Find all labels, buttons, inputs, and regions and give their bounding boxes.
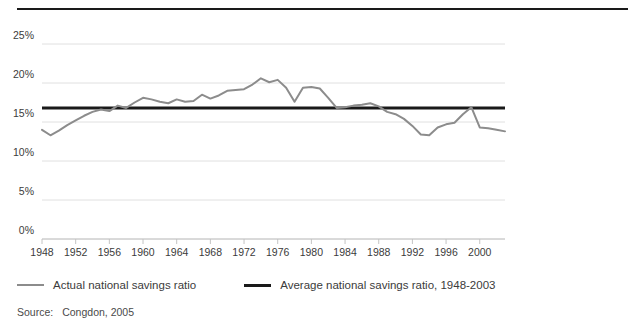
savings-ratio-line-chart: 0%5%10%15%20%25% 19481952195619601964196… xyxy=(0,18,641,258)
legend-swatch-average-icon xyxy=(244,284,271,287)
x-axis-tick-label: 1968 xyxy=(199,246,223,258)
y-axis-tick-label: 5% xyxy=(19,185,34,197)
legend-label-actual: Actual national savings ratio xyxy=(53,279,196,291)
x-axis-tick-label: 1956 xyxy=(98,246,122,258)
legend-item-average: Average national savings ratio, 1948-200… xyxy=(244,279,495,291)
x-axis-tick-label: 1972 xyxy=(232,246,256,258)
x-axis-tick-label: 1992 xyxy=(401,246,425,258)
x-axis-tick-label: 1984 xyxy=(333,246,357,258)
x-axis-tick-labels: 1948195219561960196419681972197619801984… xyxy=(30,246,491,258)
x-axis-ticks xyxy=(42,239,480,244)
x-axis-tick-label: 1980 xyxy=(300,246,324,258)
x-axis-tick-label: 1960 xyxy=(131,246,155,258)
chart-legend: Actual national savings ratio Average na… xyxy=(17,275,627,295)
x-axis-tick-label: 1948 xyxy=(30,246,54,258)
y-axis-tick-label: 10% xyxy=(13,146,34,158)
x-axis-tick-label: 1988 xyxy=(367,246,391,258)
top-divider-rule xyxy=(17,8,628,10)
legend-item-actual: Actual national savings ratio xyxy=(17,279,196,291)
legend-swatch-actual-icon xyxy=(17,284,44,286)
y-axis-tick-label: 15% xyxy=(13,107,34,119)
y-axis-tick-label: 25% xyxy=(13,29,34,41)
x-axis-tick-label: 2000 xyxy=(468,246,492,258)
y-axis-tick-labels: 0%5%10%15%20%25% xyxy=(13,29,34,236)
source-note: Source: Congdon, 2005 xyxy=(17,306,134,318)
gridlines-group xyxy=(42,44,505,239)
legend-label-average: Average national savings ratio, 1948-200… xyxy=(280,279,495,291)
x-axis-tick-label: 1952 xyxy=(64,246,88,258)
y-axis-tick-label: 0% xyxy=(19,224,34,236)
source-label: Source: xyxy=(17,306,53,318)
x-axis-tick-label: 1996 xyxy=(434,246,458,258)
x-axis-tick-label: 1964 xyxy=(165,246,189,258)
y-axis-tick-label: 20% xyxy=(13,68,34,80)
figure-container: 0%5%10%15%20%25% 19481952195619601964196… xyxy=(0,0,641,332)
source-text: Congdon, 2005 xyxy=(62,306,134,318)
chart-plot-area: 0%5%10%15%20%25% 19481952195619601964196… xyxy=(0,18,641,258)
x-axis-tick-label: 1976 xyxy=(266,246,290,258)
